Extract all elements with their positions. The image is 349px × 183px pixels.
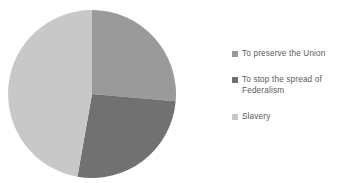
pie-slice[interactable] — [77, 94, 175, 178]
legend-item[interactable]: Slavery — [232, 111, 347, 123]
pie-slice-group — [8, 10, 176, 178]
pie-chart: To preserve the Union To stop the spread… — [0, 0, 349, 183]
legend-swatch-icon — [232, 114, 238, 120]
chart-legend: To preserve the Union To stop the spread… — [232, 48, 347, 122]
pie-svg — [8, 10, 176, 178]
legend-item-label: Slavery — [242, 111, 270, 123]
pie-slice[interactable] — [92, 10, 176, 101]
legend-item-label: To preserve the Union — [242, 48, 326, 60]
legend-item[interactable]: To preserve the Union — [232, 48, 347, 60]
pie-slice[interactable] — [8, 10, 92, 177]
legend-item[interactable]: To stop the spread of Federalism — [232, 74, 347, 97]
legend-swatch-icon — [232, 77, 238, 83]
legend-swatch-icon — [232, 51, 238, 57]
legend-item-label: To stop the spread of Federalism — [242, 74, 322, 97]
pie-graphic — [8, 10, 176, 178]
